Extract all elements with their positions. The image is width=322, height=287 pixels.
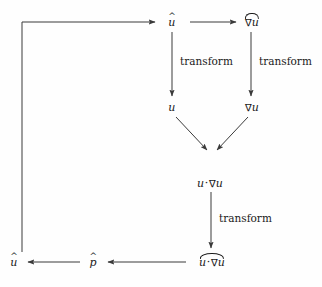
hat-accent-icon: ^ [89,252,96,261]
p-hat-glyph: ^p [89,257,96,268]
u-hat-glyph: ^u [168,17,175,28]
edge-label-transform-bottom: transform [219,213,272,224]
nabla-icon: ∇ [209,178,216,189]
node-u-physical-label: u [168,101,175,114]
node-u-dot-grad-u: u·∇u [197,178,223,189]
edge-label-transform-right: transform [259,56,312,67]
node-grad-u-hat: ∇u [245,16,259,28]
edge-feedback-loop [22,22,155,252]
widehat-group: ∇u [245,16,259,28]
node-u-physical: u [168,102,175,113]
node-u-hat-top: ^u [168,17,175,28]
u-hat-glyph: ^u [10,257,17,268]
hat-accent-icon: ^ [10,252,17,261]
node-u-dot-grad-u-hat: u·∇u [199,256,225,268]
edge-gradu-to-product [217,117,248,150]
nabla-icon: ∇ [245,17,252,28]
nabla-icon: ∇ [245,102,252,113]
diagram-edges-layer [0,0,322,287]
node-u-hat-output: ^u [10,257,17,268]
node-grad-u-hat-label: u [252,16,259,29]
edge-u-to-product [176,117,207,150]
hat-accent-icon: ^ [168,12,175,21]
node-p-hat: ^p [89,257,96,268]
operand-u2: u [216,177,223,190]
edge-label-transform-left: transform [180,56,233,67]
operand-u2: u [218,256,225,269]
diagram-canvas: ^u ∇u u ∇u u·∇u u·∇u ^p ^u transform tra… [0,0,322,287]
nabla-icon: ∇ [211,257,218,268]
node-grad-u-physical-label: u [252,101,259,114]
node-grad-u-physical: ∇u [245,102,259,113]
widehat-group: u·∇u [199,256,225,268]
